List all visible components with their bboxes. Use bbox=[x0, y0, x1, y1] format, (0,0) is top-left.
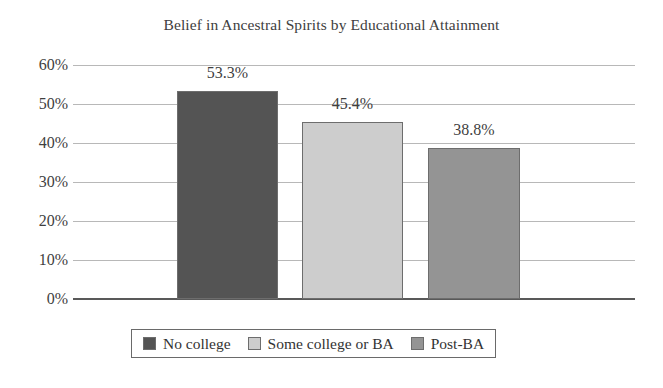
chart-title: Belief in Ancestral Spirits by Education… bbox=[0, 16, 663, 34]
legend-swatch-icon bbox=[411, 337, 424, 350]
y-tick-label: 60% bbox=[6, 56, 68, 74]
bar-chart: Belief in Ancestral Spirits by Education… bbox=[0, 0, 663, 388]
bar-no-college[interactable] bbox=[177, 91, 278, 299]
legend: No college Some college or BA Post-BA bbox=[131, 329, 496, 358]
legend-label: Post-BA bbox=[431, 335, 484, 353]
legend-item-some-college-or-ba[interactable]: Some college or BA bbox=[248, 335, 394, 353]
legend-item-no-college[interactable]: No college bbox=[143, 335, 231, 353]
y-tick-label: 30% bbox=[6, 173, 68, 191]
y-tick-label: 20% bbox=[6, 212, 68, 230]
y-tick-label: 40% bbox=[6, 134, 68, 152]
bar-post-ba[interactable] bbox=[428, 148, 520, 299]
gridline-60 bbox=[73, 65, 635, 66]
plot-area: 53.3% 45.4% 38.8% bbox=[73, 65, 635, 299]
y-tick-label: 50% bbox=[6, 95, 68, 113]
bar-value-label-post-ba: 38.8% bbox=[428, 121, 520, 139]
y-tick-label: 10% bbox=[6, 251, 68, 269]
y-tick-label: 0% bbox=[6, 290, 68, 308]
legend-swatch-icon bbox=[143, 337, 156, 350]
legend-label: Some college or BA bbox=[268, 335, 394, 353]
y-axis: 60% 50% 40% 30% 20% 10% 0% bbox=[0, 0, 68, 388]
legend-swatch-icon bbox=[248, 337, 261, 350]
bar-value-label-no-college: 53.3% bbox=[177, 64, 278, 82]
bar-some-college-or-ba[interactable] bbox=[302, 122, 403, 299]
legend-label: No college bbox=[163, 335, 231, 353]
legend-item-post-ba[interactable]: Post-BA bbox=[411, 335, 484, 353]
bar-value-label-some-college-or-ba: 45.4% bbox=[302, 95, 403, 113]
